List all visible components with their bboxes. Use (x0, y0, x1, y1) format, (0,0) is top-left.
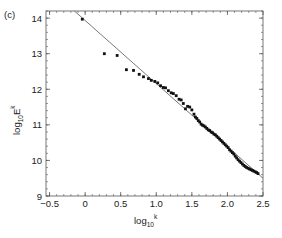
x-tick-label: 1.0 (150, 198, 163, 209)
chart: (c) −0.500.51.01.52.02.5 91011121314 log… (0, 0, 282, 238)
y-axis-label: log10Ek (9, 105, 24, 135)
x-axis-ticks: −0.500.51.01.52.02.5 (40, 11, 269, 209)
panel-label: (c) (4, 9, 15, 20)
x-tick-label: 0.5 (114, 198, 127, 209)
x-tick-label: 0 (82, 198, 87, 209)
x-tick-label: −0.5 (40, 198, 59, 209)
plot-frame (46, 11, 263, 196)
x-tick-label: 2.0 (221, 198, 234, 209)
y-tick-label: 11 (32, 119, 42, 130)
x-tick-label: 2.5 (256, 198, 269, 209)
y-tick-label: 12 (31, 84, 42, 95)
y-tick-label: 14 (31, 13, 42, 24)
y-tick-label: 13 (31, 48, 42, 59)
y-tick-label: 9 (37, 191, 42, 202)
x-tick-label: 1.5 (185, 198, 198, 209)
y-axis-ticks: 91011121314 (31, 11, 263, 202)
y-tick-label: 10 (31, 155, 42, 166)
x-axis-label: log10k (134, 213, 158, 228)
